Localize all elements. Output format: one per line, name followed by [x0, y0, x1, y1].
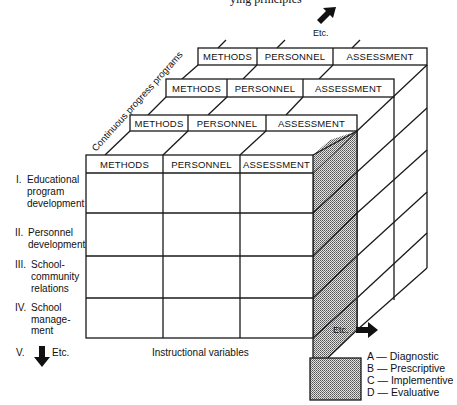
- top-cut-text: ying principles: [230, 0, 302, 6]
- svg-text:development: development: [27, 198, 84, 209]
- cube-side-back: [357, 65, 427, 330]
- header-personnel: PERSONNEL: [235, 83, 295, 94]
- layer-header-3: METHODS PERSONNEL ASSESSMENT: [130, 115, 357, 131]
- svg-text:relations: relations: [31, 283, 69, 294]
- header-methods: METHODS: [203, 51, 252, 62]
- depth-arrow-icon: [317, 7, 336, 24]
- svg-text:IV.: IV.: [15, 302, 26, 313]
- svg-text:program: program: [27, 186, 64, 197]
- cube-diagram: ying principles Etc. Continuous progress…: [0, 0, 457, 405]
- svg-text:community: community: [31, 271, 79, 282]
- header-assessment: ASSESSMENT: [278, 118, 345, 129]
- header-methods: METHODS: [100, 159, 149, 170]
- header-assessment: ASSESSMENT: [347, 51, 414, 62]
- svg-text:School: School: [31, 302, 62, 313]
- legend-swatch: [310, 358, 361, 400]
- header-assessment: ASSESSMENT: [243, 159, 310, 170]
- legend: A — Diagnostic B — Prescriptive C — Impl…: [310, 350, 454, 400]
- header-personnel: PERSONNEL: [265, 51, 325, 62]
- right-arrow-icon: [356, 322, 378, 338]
- down-etc-numeral: V.: [16, 347, 25, 358]
- row-label-4: IV. School manage- ment: [15, 302, 70, 336]
- legend-item-d: D — Evaluative: [367, 386, 440, 398]
- down-etc-label: Etc.: [52, 347, 69, 358]
- svg-text:manage-: manage-: [31, 314, 70, 325]
- down-arrow-icon: [34, 346, 50, 367]
- right-etc-label: Etc.: [333, 325, 349, 335]
- svg-text:ment: ment: [31, 325, 53, 336]
- layer-header-back: METHODS PERSONNEL ASSESSMENT: [198, 40, 427, 65]
- header-personnel: PERSONNEL: [171, 159, 231, 170]
- header-personnel: PERSONNEL: [197, 118, 257, 129]
- svg-text:Personnel: Personnel: [28, 227, 73, 238]
- header-methods: METHODS: [172, 83, 221, 94]
- cube-front-face: METHODS PERSONNEL ASSESSMENT: [86, 155, 313, 338]
- svg-text:III.: III.: [15, 259, 26, 270]
- legend-item-a: A — Diagnostic: [367, 350, 439, 362]
- header-assessment: ASSESSMENT: [315, 83, 382, 94]
- assessment-side-shaded: [313, 131, 357, 372]
- svg-text:I.: I.: [16, 174, 22, 185]
- row-label-3: III. School- community relations: [15, 259, 79, 294]
- layer-header-2: METHODS PERSONNEL ASSESSMENT: [166, 79, 394, 97]
- legend-item-b: B — Prescriptive: [367, 362, 445, 374]
- depth-etc-label: Etc.: [313, 28, 329, 38]
- header-methods: METHODS: [135, 118, 184, 129]
- depth-axis-label: Continuous progress programs: [89, 49, 185, 153]
- svg-text:Educational: Educational: [27, 174, 79, 185]
- row-label-2: II. Personnel development: [15, 227, 85, 250]
- svg-text:development: development: [28, 239, 85, 250]
- svg-text:II.: II.: [15, 227, 23, 238]
- horizontal-axis-label: Instructional variables: [152, 347, 249, 358]
- row-label-1: I. Educational program development: [16, 174, 84, 209]
- svg-text:School-: School-: [31, 259, 65, 270]
- legend-item-c: C — Implementive: [367, 374, 454, 386]
